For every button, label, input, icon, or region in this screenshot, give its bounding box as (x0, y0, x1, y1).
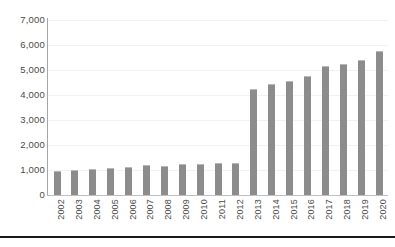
x-axis-tick-slot: 2009 (173, 197, 191, 231)
bar (358, 60, 365, 195)
x-axis-tick-slot: 2003 (66, 197, 84, 231)
y-axis-tick-label: 2,000 (1, 140, 45, 150)
x-axis-tick-slot: 2020 (370, 197, 388, 231)
y-axis-tick-label: 1,000 (1, 165, 45, 175)
bar (340, 64, 347, 195)
bar (107, 168, 114, 195)
x-axis-tick-slot: 2006 (120, 197, 138, 231)
y-axis-tick-label: 3,000 (1, 115, 45, 125)
x-axis-tick-label: 2015 (290, 199, 299, 220)
bar-slot (316, 20, 334, 195)
x-axis-tick-slot: 2016 (299, 197, 317, 231)
x-axis-tick-slot: 2017 (316, 197, 334, 231)
x-axis-tick-label: 2007 (146, 199, 155, 220)
bar (250, 89, 257, 195)
x-axis-tick-label: 2018 (343, 199, 352, 220)
x-axis-tick-slot: 2004 (84, 197, 102, 231)
x-axis-tick-slot: 2005 (102, 197, 120, 231)
x-axis-tick-label: 2004 (93, 199, 102, 220)
bar (89, 169, 96, 195)
bar-slot (84, 20, 102, 195)
bar (125, 167, 132, 195)
y-axis-line (47, 18, 48, 196)
x-axis-tick-label: 2013 (254, 199, 263, 220)
bottom-divider (0, 236, 395, 238)
bar-slot (334, 20, 352, 195)
x-axis-tick-label: 2016 (307, 199, 316, 220)
y-axis-tick-label: 6,000 (1, 40, 45, 50)
x-axis-tick-slot: 2002 (48, 197, 66, 231)
bar-slot (173, 20, 191, 195)
x-axis-tick-slot: 2018 (334, 197, 352, 231)
y-axis-tick-label: 7,000 (1, 15, 45, 25)
bar-slot (191, 20, 209, 195)
x-axis-tick-label: 2006 (129, 199, 138, 220)
bar (71, 170, 78, 195)
bar-slot (245, 20, 263, 195)
x-axis-tick-label: 2020 (379, 199, 388, 220)
bar (215, 163, 222, 195)
bar-slot (48, 20, 66, 195)
x-axis-tick-label: 2010 (200, 199, 209, 220)
bar (304, 76, 311, 195)
bar-slot (263, 20, 281, 195)
bar-slot (227, 20, 245, 195)
bar (232, 163, 239, 195)
x-axis-tick-slot: 2011 (209, 197, 227, 231)
bar-slot (209, 20, 227, 195)
y-axis-tick-label: 0 (1, 190, 45, 200)
bar-slot (137, 20, 155, 195)
bar (197, 164, 204, 195)
x-axis-tick-slot: 2007 (137, 197, 155, 231)
bar-chart: 7,000 6,000 5,000 4,000 3,000 2,000 1,00… (0, 0, 395, 247)
x-axis-tick-label: 2003 (75, 199, 84, 220)
x-axis-tick-label: 2014 (272, 199, 281, 220)
y-axis-tick-labels: 7,000 6,000 5,000 4,000 3,000 2,000 1,00… (0, 0, 45, 247)
x-axis-tick-label: 2019 (361, 199, 370, 220)
bar-slot (102, 20, 120, 195)
x-axis-tick-slot: 2015 (281, 197, 299, 231)
bar-slot (120, 20, 138, 195)
x-axis-tick-slot: 2019 (352, 197, 370, 231)
bar-slot (66, 20, 84, 195)
bar (179, 164, 186, 195)
x-axis-tick-slot: 2012 (227, 197, 245, 231)
x-axis-tick-label: 2002 (57, 199, 66, 220)
bar-slot (299, 20, 317, 195)
bar-slot (281, 20, 299, 195)
bar (268, 84, 275, 195)
x-axis-line (47, 195, 388, 196)
bar (286, 81, 293, 195)
bar-series (48, 20, 388, 195)
bar (143, 165, 150, 195)
x-axis-tick-label: 2017 (325, 199, 334, 220)
x-axis-tick-slot: 2008 (155, 197, 173, 231)
bar-slot (352, 20, 370, 195)
x-axis-tick-labels: 2002200320042005200620072008200920102011… (48, 197, 388, 231)
x-axis-tick-slot: 2014 (263, 197, 281, 231)
x-axis-tick-label: 2008 (164, 199, 173, 220)
bar-slot (370, 20, 388, 195)
x-axis-tick-label: 2012 (236, 199, 245, 220)
bar-slot (155, 20, 173, 195)
plot-area (48, 20, 388, 195)
bar (54, 171, 61, 195)
x-axis-tick-label: 2005 (111, 199, 120, 220)
x-axis-tick-label: 2009 (182, 199, 191, 220)
y-axis-tick-label: 4,000 (1, 90, 45, 100)
x-axis-tick-slot: 2013 (245, 197, 263, 231)
x-axis-tick-slot: 2010 (191, 197, 209, 231)
bar (322, 66, 329, 195)
x-axis-tick-label: 2011 (218, 199, 227, 219)
y-axis-tick-label: 5,000 (1, 65, 45, 75)
bar (376, 51, 383, 195)
bar (161, 166, 168, 196)
